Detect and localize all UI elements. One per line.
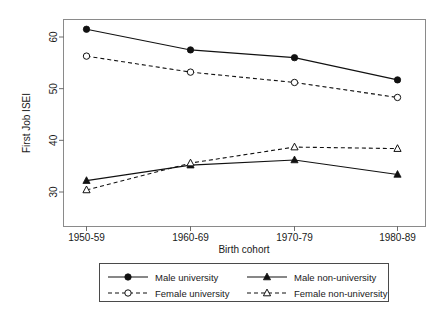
legend-label-2: Female university — [155, 288, 230, 299]
series-line-2 — [87, 56, 398, 97]
y-tick-label-60: 60 — [48, 31, 59, 43]
y-tick-label-40: 40 — [48, 134, 59, 146]
x-tick-label-1: 1960-69 — [172, 232, 209, 243]
chart-canvas: 30405060 1950-591960-691970-791980-89 Fi… — [0, 0, 448, 313]
y-axis: 30405060 — [48, 31, 64, 198]
legend-marker-2 — [125, 290, 131, 296]
series-line-0 — [87, 29, 398, 80]
x-tick-label-3: 1980-89 — [379, 232, 416, 243]
data-point-2-2 — [291, 79, 297, 85]
data-point-2-1 — [187, 69, 193, 75]
data-point-1-2 — [291, 156, 298, 163]
y-axis-title: First Job ISEI — [21, 93, 32, 153]
data-point-3-2 — [291, 143, 298, 150]
data-point-0-3 — [394, 77, 400, 83]
x-tick-label-2: 1970-79 — [276, 232, 313, 243]
series-female-university — [83, 53, 400, 101]
chart-figure: 30405060 1950-591960-691970-791980-89 Fi… — [0, 0, 448, 313]
data-point-2-0 — [83, 53, 89, 59]
x-axis-title: Birth cohort — [218, 244, 269, 255]
data-point-3-3 — [394, 145, 401, 152]
data-point-2-3 — [394, 94, 400, 100]
series-line-3 — [87, 147, 398, 190]
y-tick-label-50: 50 — [48, 83, 59, 95]
data-point-0-2 — [291, 54, 297, 60]
legend-label-1: Male non-university — [294, 272, 377, 283]
legend-label-3: Female non-university — [294, 288, 388, 299]
series-male-university — [83, 26, 400, 83]
data-point-0-0 — [83, 26, 89, 32]
plot-frame — [64, 20, 426, 227]
x-axis: 1950-591960-691970-791980-89 — [68, 226, 416, 243]
data-point-3-1 — [187, 159, 194, 166]
series-layer — [83, 26, 401, 193]
chart-legend: Male universityMale non-universityFemale… — [100, 264, 389, 302]
series-male-non-university — [83, 156, 401, 183]
y-tick-label-30: 30 — [48, 186, 59, 198]
legend-marker-0 — [125, 274, 131, 280]
data-point-0-1 — [187, 47, 193, 53]
x-tick-label-0: 1950-59 — [68, 232, 105, 243]
series-line-1 — [87, 160, 398, 181]
legend-label-0: Male university — [155, 272, 219, 283]
